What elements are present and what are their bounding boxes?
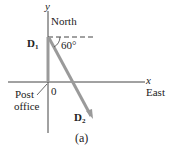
diagram-canvas <box>0 0 179 154</box>
d2-label: D2 <box>74 112 85 123</box>
east-label: East <box>146 87 165 98</box>
angle-arc <box>54 37 60 47</box>
figure-caption: (a) <box>75 133 88 144</box>
y-axis-label: y <box>45 1 50 12</box>
north-label: North <box>51 16 77 27</box>
d1-label: D1 <box>27 38 38 49</box>
angle-label: 60° <box>61 40 76 51</box>
origin-label: 0 <box>51 86 57 97</box>
x-axis-label: x <box>146 75 151 86</box>
post-office-label-line1: Post <box>15 89 34 100</box>
post-office-label-line2: office <box>14 101 39 112</box>
origin-pointer <box>37 84 47 95</box>
